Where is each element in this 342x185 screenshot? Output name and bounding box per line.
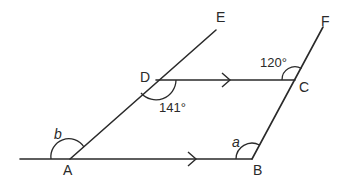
point-label-D: D [140, 69, 150, 85]
angle-label-C: 120° [260, 55, 287, 70]
point-label-F: F [321, 13, 330, 29]
point-label-C: C [299, 79, 309, 95]
point-label-B: B [253, 162, 262, 178]
line-BF [252, 27, 323, 159]
point-label-A: A [63, 162, 73, 178]
point-label-E: E [216, 9, 225, 25]
angle-label-A: b [54, 126, 62, 142]
angle-label-D: 141° [159, 100, 186, 115]
geometry-diagram: E F D C A B 120° 141° b a [0, 0, 342, 185]
angle-label-B: a [232, 134, 240, 150]
